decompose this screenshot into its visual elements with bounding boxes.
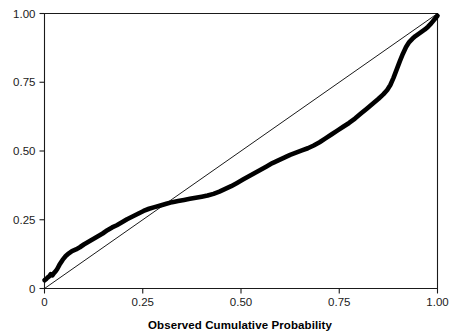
y-tick-label: 0.50 bbox=[13, 145, 35, 157]
y-axis-tick-labels: 00.250.500.751.00 bbox=[13, 8, 35, 295]
plot-series-group bbox=[45, 14, 438, 289]
expected-cumulative-probability-curve bbox=[45, 16, 438, 281]
x-tick-label: 0.25 bbox=[132, 296, 154, 308]
y-tick-label: 1.00 bbox=[13, 8, 35, 20]
y-tick-label: 0 bbox=[29, 283, 35, 295]
y-tick-label: 0.75 bbox=[13, 76, 35, 88]
x-tick-label: 0.50 bbox=[230, 296, 252, 308]
y-axis-tick-marks bbox=[40, 14, 45, 289]
pp-plot-figure: 00.250.500.751.00 00.250.500.751.00 Obse… bbox=[0, 0, 460, 336]
x-tick-label: 1.00 bbox=[426, 296, 448, 308]
y-tick-label: 0.25 bbox=[13, 214, 35, 226]
reference-diagonal-line bbox=[45, 14, 438, 289]
x-axis-title: Observed Cumulative Probability bbox=[148, 319, 332, 331]
x-tick-label: 0.75 bbox=[328, 296, 350, 308]
x-tick-label: 0 bbox=[41, 296, 47, 308]
x-axis-tick-marks bbox=[45, 289, 438, 294]
x-axis-tick-labels: 00.250.500.751.00 bbox=[41, 296, 448, 308]
pp-plot-svg: 00.250.500.751.00 00.250.500.751.00 Obse… bbox=[0, 0, 460, 336]
